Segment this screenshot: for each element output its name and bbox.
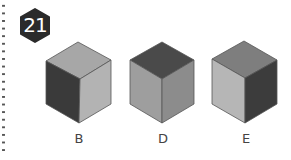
cube-icon <box>44 40 114 126</box>
cube-option-b <box>44 40 114 126</box>
option-label-e: E <box>231 131 261 146</box>
cube-icon <box>210 40 280 126</box>
cube-option-e <box>210 40 280 126</box>
cube-option-d <box>128 40 198 126</box>
dotted-margin-line <box>2 2 5 156</box>
question-number: 21 <box>19 8 51 43</box>
option-label-d: D <box>148 131 178 146</box>
question-number-badge: 21 <box>19 8 51 43</box>
option-label-b: B <box>64 131 94 146</box>
cube-icon <box>128 40 198 126</box>
